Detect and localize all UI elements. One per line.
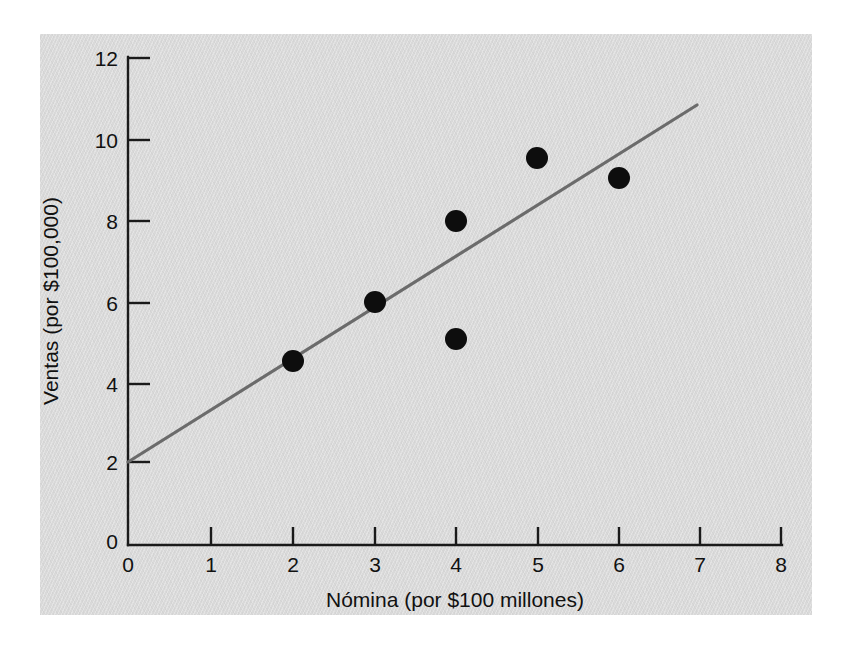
y-axis-ticks [128,58,150,462]
y-tick-label-8: 8 [106,210,118,233]
chart-figure: 12 10 8 6 4 2 0 0 1 2 3 4 5 6 7 8 [0,0,842,650]
x-tick-label-1: 1 [205,553,217,576]
regression-line [128,105,697,462]
x-tick-label-6: 6 [613,553,625,576]
x-tick-label-5: 5 [532,553,544,576]
x-tick-label-4: 4 [450,553,462,576]
x-axis-ticks [211,527,781,545]
x-tick-label-7: 7 [694,553,706,576]
y-tick-label-2: 2 [106,451,118,474]
y-tick-labels: 12 10 8 6 4 2 0 [95,47,119,553]
y-tick-label-10: 10 [95,129,118,152]
y-axis-title: Ventas (por $100,000) [39,197,62,405]
x-tick-label-3: 3 [369,553,381,576]
data-point [526,147,548,169]
y-tick-label-12: 12 [95,47,118,70]
y-tick-label-6: 6 [106,292,118,315]
x-tick-labels: 0 1 2 3 4 5 6 7 8 [122,553,787,576]
data-point [364,291,386,313]
scatter-plot: 12 10 8 6 4 2 0 0 1 2 3 4 5 6 7 8 [0,0,842,650]
data-point [608,167,630,189]
data-point [445,328,467,350]
x-tick-label-8: 8 [775,553,787,576]
x-axis-title: Nómina (por $100 millones) [326,588,584,611]
x-tick-label-0: 0 [122,553,134,576]
data-point [445,210,467,232]
y-tick-label-0: 0 [106,530,118,553]
y-tick-label-4: 4 [106,373,118,396]
data-point [282,350,304,372]
x-tick-label-2: 2 [287,553,299,576]
